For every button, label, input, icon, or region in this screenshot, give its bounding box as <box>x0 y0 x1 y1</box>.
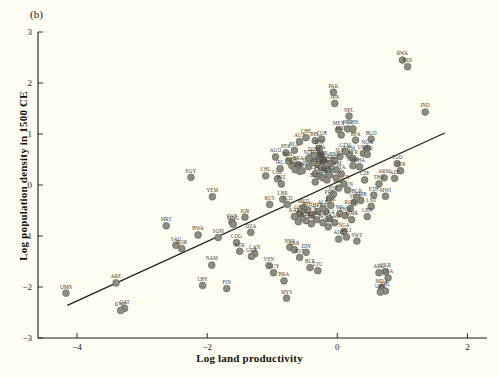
data-point <box>247 229 254 236</box>
data-point <box>331 100 338 107</box>
data-point <box>376 269 383 276</box>
data-point <box>320 219 327 226</box>
data-point <box>283 295 290 302</box>
data-point <box>117 307 124 314</box>
data-point <box>195 232 202 239</box>
data-point <box>209 193 216 200</box>
data-point <box>422 109 429 116</box>
data-point <box>352 137 359 144</box>
data-point <box>303 134 310 141</box>
point-label: ARE <box>111 273 122 279</box>
point-label: BGR <box>351 188 362 194</box>
point-label: USA <box>383 268 394 274</box>
point-label: BWA <box>192 225 204 231</box>
data-point <box>377 289 384 296</box>
axes: −3−2−10123−4−202 <box>22 27 487 352</box>
point-label: MKD <box>297 198 309 204</box>
point-label: BFA <box>351 131 361 137</box>
data-point <box>236 248 243 255</box>
point-label: PRT <box>325 189 335 195</box>
data-point <box>353 194 360 201</box>
x-axis-label: Log land productivity <box>0 352 499 364</box>
point-label: NOR <box>176 239 188 245</box>
data-point <box>277 165 284 172</box>
point-label: GHA <box>354 157 366 163</box>
data-point <box>230 221 237 228</box>
point-label: VEN <box>264 256 275 262</box>
data-point <box>262 172 269 179</box>
data-points: OMNAREQATKWTMRTSAUNOREGYBWALBYYEMNAMSOMF… <box>60 50 430 313</box>
point-label: FIN <box>222 279 231 285</box>
data-point <box>353 238 360 245</box>
svg-text:3: 3 <box>28 27 33 37</box>
data-point <box>346 113 353 120</box>
point-label: ZAR <box>289 240 300 246</box>
point-label: BIZ <box>277 174 286 180</box>
point-label: URY <box>375 283 386 289</box>
point-label: MYS <box>281 289 292 295</box>
point-label: GUY <box>268 263 280 269</box>
point-label: PAK <box>328 83 338 89</box>
point-label: BRA <box>279 271 290 277</box>
data-point <box>333 174 340 181</box>
svg-text:2: 2 <box>465 342 470 352</box>
data-point <box>326 171 333 178</box>
data-point <box>391 175 398 182</box>
point-label: MNG <box>227 215 239 221</box>
data-point <box>382 193 389 200</box>
data-point <box>178 245 185 252</box>
data-point <box>404 63 411 70</box>
data-point <box>242 214 249 221</box>
data-point <box>272 154 279 161</box>
data-point <box>312 179 319 186</box>
point-label: EGY <box>186 168 197 174</box>
y-axis-label: Log population density in 1500 CE <box>17 61 29 291</box>
svg-text:−3: −3 <box>22 333 32 343</box>
svg-text:−4: −4 <box>72 342 82 352</box>
data-point <box>163 222 170 229</box>
point-label: NZL <box>304 149 314 155</box>
data-point <box>348 216 355 223</box>
data-point <box>270 269 277 276</box>
point-label: CZE <box>360 170 370 176</box>
figure-panel: (b) −3−2−10123−4−202OMNAREQATKWTMRTSAUNO… <box>0 0 499 377</box>
point-label: NPL <box>344 107 354 113</box>
point-label: CHL <box>261 166 272 172</box>
point-label: NAM <box>206 255 219 261</box>
data-point <box>266 201 273 208</box>
point-label: BDI <box>403 57 412 63</box>
point-label: RWA <box>397 50 409 56</box>
point-label: TCD <box>362 145 373 151</box>
point-label: YEM <box>207 187 219 193</box>
data-point <box>343 234 350 241</box>
point-label: PNG <box>324 165 335 171</box>
point-label: IND <box>421 102 431 108</box>
point-label: OMN <box>60 284 72 290</box>
point-label: KWT <box>115 301 128 307</box>
data-point <box>305 163 312 170</box>
point-label: KAZ <box>289 207 300 213</box>
point-label: CUB <box>316 130 327 136</box>
point-label: LBN <box>362 207 373 213</box>
data-point <box>296 254 303 261</box>
point-label: ETH <box>369 186 379 192</box>
point-label: TGO <box>392 154 403 160</box>
data-point <box>208 262 215 269</box>
data-point <box>335 236 342 243</box>
point-label: TCD <box>282 195 293 201</box>
data-point <box>291 147 298 154</box>
data-point <box>248 253 255 260</box>
point-label: LBY <box>197 276 208 282</box>
point-label: RUS <box>265 195 275 201</box>
data-point <box>278 181 285 188</box>
point-label: MLI <box>342 227 352 233</box>
svg-text:−2: −2 <box>202 342 212 352</box>
data-point <box>199 282 206 289</box>
data-point <box>215 234 222 241</box>
data-point <box>330 89 337 96</box>
data-point <box>223 285 230 292</box>
data-point <box>350 162 357 169</box>
point-label: GAB <box>246 247 258 253</box>
point-label: BGD <box>366 130 377 136</box>
point-label: TUR <box>395 161 406 167</box>
